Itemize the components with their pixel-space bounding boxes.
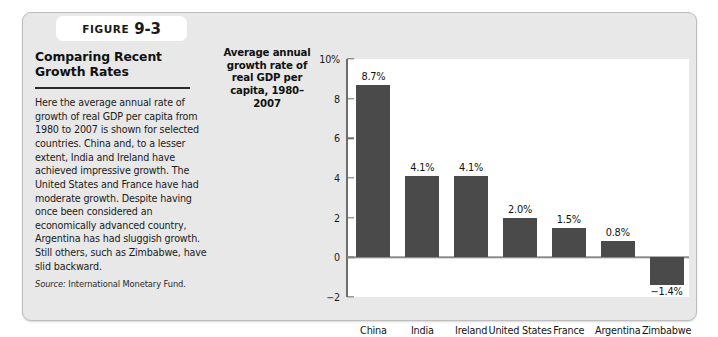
y-tick-label: 2 [284, 212, 340, 223]
bar [356, 85, 390, 258]
figure-title: Comparing Recent Growth Rates [35, 49, 207, 79]
y-tick-mark [347, 217, 354, 218]
y-tick-label: 8 [284, 93, 340, 104]
y-tick-mark [347, 138, 354, 139]
plot-area [347, 59, 689, 297]
chart: Average annual growth rate of real GDP p… [218, 35, 688, 315]
plot-wrapper: 10%86420−2 8.7%4.1%4.1%2.0%1.5%0.8%−1.4%… [342, 59, 689, 297]
bar-value-label: 1.5% [537, 214, 601, 225]
bar-value-label: 8.7% [341, 71, 405, 82]
y-tick-mark [347, 58, 354, 59]
bar [503, 218, 537, 258]
figure-tab-number: 9-3 [134, 20, 161, 38]
y-tick-mark [347, 177, 354, 178]
y-tick-mark [347, 98, 354, 99]
bar [650, 257, 684, 285]
bar-value-label: −1.4% [635, 286, 699, 297]
bar [454, 176, 488, 257]
figure-tab-word: Figure [82, 23, 129, 35]
source-text: International Monetary Fund. [68, 279, 185, 289]
bar [552, 228, 586, 258]
bar [405, 176, 439, 257]
y-tick-label: 6 [284, 133, 340, 144]
source-label: Source: [35, 279, 66, 289]
caption-column: Comparing Recent Growth Rates Here the a… [35, 49, 225, 289]
y-tick-mark [347, 296, 354, 297]
figure-panel: Figure 9-3 Comparing Recent Growth Rates… [22, 12, 697, 321]
bar-value-label: 4.1% [439, 162, 503, 173]
y-tick-label: 4 [284, 173, 340, 184]
y-tick-label: 0 [284, 252, 340, 263]
caption-body-text: Here the average annual rate of growth o… [35, 96, 211, 273]
y-tick-label: 10% [284, 54, 340, 65]
bar [601, 241, 635, 257]
figure-number-tab: Figure 9-3 [56, 16, 187, 41]
caption-divider [35, 87, 190, 89]
x-category-label: Zimbabwe [632, 325, 702, 337]
y-tick-label: −2 [284, 292, 340, 303]
bar-value-label: 0.8% [586, 227, 650, 238]
source-line: Source: International Monetary Fund. [35, 279, 215, 289]
